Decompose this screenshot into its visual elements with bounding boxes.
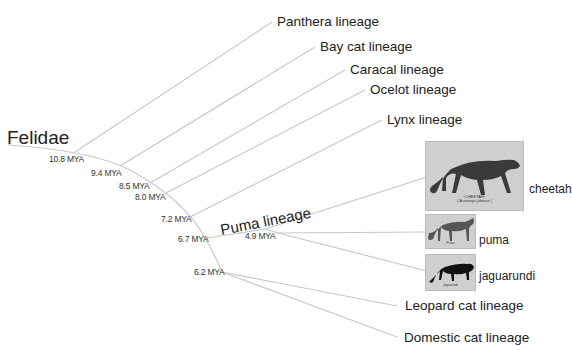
node-age-4-9: 4.9 MYA bbox=[245, 232, 276, 241]
node-age-8-5: 8.5 MYA bbox=[119, 182, 150, 191]
puma-illustration: Puma bbox=[425, 214, 476, 249]
puma-caption: Puma bbox=[426, 242, 475, 245]
branch-domestic-cat bbox=[222, 272, 397, 337]
node-age-7-2: 7.2 MYA bbox=[161, 215, 192, 224]
jaguarundi-caption-title: Jaguarundi bbox=[426, 284, 475, 287]
backbone-branch bbox=[8, 145, 222, 272]
node-age-9-4: 9.4 MYA bbox=[91, 169, 122, 178]
species-label-cheetah: cheetah bbox=[529, 183, 572, 195]
branch-puma bbox=[278, 232, 427, 233]
branch-bay-cat bbox=[120, 47, 315, 166]
lineage-label-leopard-cat: Leopard cat lineage bbox=[405, 299, 524, 313]
lineage-label-domestic-cat: Domestic cat lineage bbox=[404, 331, 529, 345]
node-age-6-7: 6.7 MYA bbox=[178, 235, 209, 244]
jaguarundi-caption: Jaguarundi bbox=[426, 284, 475, 287]
branch-jaguarundi bbox=[278, 233, 427, 271]
branch-ocelot bbox=[166, 90, 365, 193]
lineage-label-lynx: Lynx lineage bbox=[387, 113, 462, 127]
puma-caption-title: Puma bbox=[426, 242, 475, 245]
branch-lynx bbox=[190, 120, 382, 217]
node-age-6-2: 6.2 MYA bbox=[194, 268, 225, 277]
species-label-puma: puma bbox=[479, 234, 509, 246]
root-label-felidae: Felidae bbox=[7, 128, 69, 147]
branch-leopard-cat bbox=[222, 272, 397, 306]
cheetah-caption-sub: ( Acinonyx jubatus ) bbox=[426, 199, 523, 203]
cheetah-illustration: ~CHEETAH~ ( Acinonyx jubatus ) bbox=[425, 141, 524, 211]
lineage-label-panthera: Panthera lineage bbox=[277, 15, 379, 29]
lineage-label-bay-cat: Bay cat lineage bbox=[320, 40, 412, 54]
node-age-10-8: 10.8 MYA bbox=[49, 155, 84, 164]
branch-caracal bbox=[150, 70, 345, 183]
node-age-8-0: 8.0 MYA bbox=[135, 193, 166, 202]
lineage-label-ocelot: Ocelot lineage bbox=[370, 83, 456, 97]
cheetah-caption: ~CHEETAH~ ( Acinonyx jubatus ) bbox=[426, 195, 523, 204]
lineage-label-caracal: Caracal lineage bbox=[350, 63, 444, 77]
species-label-jaguarundi: jaguarundi bbox=[479, 270, 535, 282]
jaguarundi-illustration: Jaguarundi bbox=[425, 254, 476, 291]
branch-panthera bbox=[75, 22, 272, 152]
